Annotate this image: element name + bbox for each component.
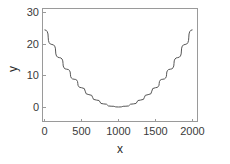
x-tick-label-500: 500 xyxy=(72,125,90,137)
y-tick-labels: 30 20 10 0 xyxy=(27,6,39,113)
x-tick-label-0: 0 xyxy=(41,125,47,137)
y-tick-label-0: 0 xyxy=(33,101,39,113)
y-tick-label-30: 30 xyxy=(27,6,39,18)
x-tick-label-1500: 1500 xyxy=(143,125,167,137)
x-tick-label-1000: 1000 xyxy=(106,125,130,137)
plot-canvas: 30 20 10 0 0 500 1000 1500 2000 x y xyxy=(0,0,230,164)
x-tick-label-2000: 2000 xyxy=(180,125,204,137)
y-tick-label-20: 20 xyxy=(27,38,39,50)
y-tick-label-10: 10 xyxy=(27,69,39,81)
data-series-parabola xyxy=(45,30,193,107)
x-axis-title: x xyxy=(117,142,123,156)
y-axis-title: y xyxy=(6,66,20,72)
chart-figure: 30 20 10 0 0 500 1000 1500 2000 x y xyxy=(0,0,230,164)
x-tick-labels: 0 500 1000 1500 2000 xyxy=(41,125,204,137)
